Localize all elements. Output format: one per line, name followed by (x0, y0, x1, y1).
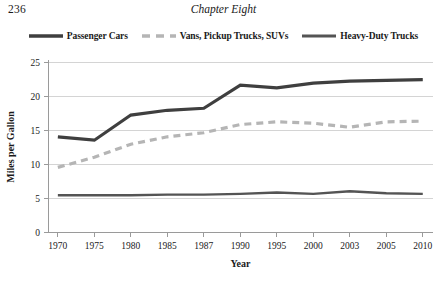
x-axis-title: Year (231, 258, 252, 269)
x-tick-label-1987: 1987 (194, 241, 213, 251)
x-tick-label-1980: 1980 (121, 241, 140, 251)
x-tick-label-2005: 2005 (377, 241, 396, 251)
legend-swatch-heavy-duty-trucks (302, 31, 336, 41)
y-tick-label-0: 0 (35, 228, 40, 238)
series-line-heavy-duty-trucks (58, 191, 423, 195)
y-tick-label-10: 10 (31, 160, 41, 170)
data-series (58, 80, 423, 196)
series-line-passenger-cars (58, 80, 423, 141)
legend-label-passenger-cars: Passenger Cars (67, 31, 128, 41)
legend-swatch-vans-pickups-suvs (142, 31, 176, 41)
y-tick-label-5: 5 (35, 194, 40, 204)
x-tick-label-1975: 1975 (85, 241, 104, 251)
x-tick-label-1970: 1970 (48, 241, 67, 251)
chart-area: 0510152025 19701975198019851987199019952… (0, 48, 447, 287)
legend-item-passenger-cars: Passenger Cars (29, 31, 128, 41)
legend-label-vans-pickups-suvs: Vans, Pickup Trucks, SUVs (180, 31, 288, 41)
y-axis-title: Miles per Gallon (5, 111, 16, 183)
y-tick-label-25: 25 (31, 58, 41, 68)
gridlines (48, 62, 433, 198)
x-tick-label-1990: 1990 (231, 241, 250, 251)
y-tick-label-20: 20 (31, 92, 41, 102)
x-axis-ticks: 1970197519801985198719901995200020032005… (48, 232, 432, 251)
page-header: 236 Chapter Eight (0, 0, 447, 22)
legend-item-heavy-duty-trucks: Heavy-Duty Trucks (302, 31, 418, 41)
legend-label-heavy-duty-trucks: Heavy-Duty Trucks (340, 31, 418, 41)
x-tick-label-1985: 1985 (158, 241, 177, 251)
legend-swatch-passenger-cars (29, 31, 63, 41)
x-tick-label-2003: 2003 (340, 241, 359, 251)
y-axis-ticks: 0510152025 (31, 58, 49, 238)
chart-legend: Passenger Cars Vans, Pickup Trucks, SUVs… (0, 31, 447, 41)
x-tick-label-2010: 2010 (413, 241, 432, 251)
x-tick-label-2000: 2000 (304, 241, 323, 251)
x-tick-label-1995: 1995 (267, 241, 286, 251)
legend-item-vans-pickups-suvs: Vans, Pickup Trucks, SUVs (142, 31, 288, 41)
running-head: Chapter Eight (0, 3, 447, 15)
y-tick-label-15: 15 (31, 126, 41, 136)
line-chart: 0510152025 19701975198019851987199019952… (0, 48, 447, 287)
